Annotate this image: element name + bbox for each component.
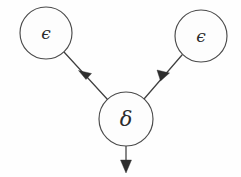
arrowhead-output-icon bbox=[121, 160, 132, 173]
arrowhead-left-icon bbox=[79, 71, 92, 80]
edge-epsilon-left-to-delta bbox=[64, 52, 108, 100]
edge-epsilon-right-to-delta bbox=[144, 55, 182, 99]
graph-diagram: ϵ ϵ δ bbox=[0, 0, 241, 177]
node-label-epsilon-right: ϵ bbox=[196, 26, 206, 46]
node-delta[interactable]: δ bbox=[99, 92, 153, 146]
diagram-canvas: ϵ ϵ δ bbox=[0, 0, 241, 177]
edge-delta-output bbox=[121, 146, 132, 173]
node-label-epsilon-left: ϵ bbox=[41, 23, 51, 43]
node-label-delta: δ bbox=[120, 107, 133, 131]
node-epsilon-right[interactable]: ϵ bbox=[175, 10, 227, 62]
node-epsilon-left[interactable]: ϵ bbox=[20, 7, 72, 59]
